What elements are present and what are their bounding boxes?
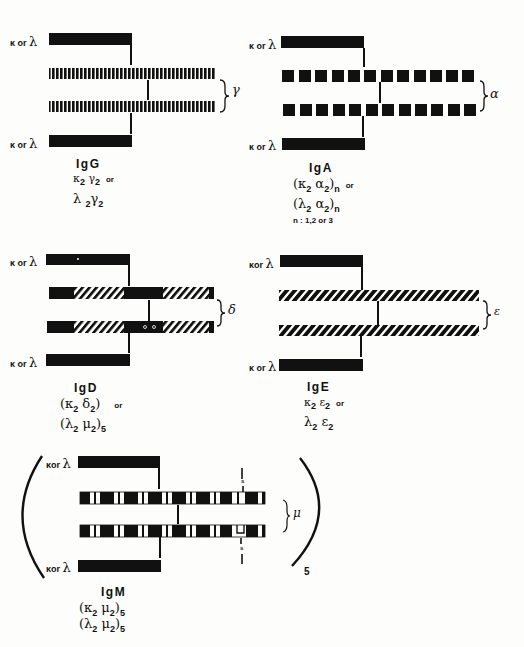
ige-formula-line-1: κ2 ε2or [304,396,344,411]
subscript: 5 [120,624,125,634]
subscript: n [334,204,340,214]
lambda-symbol: λ [268,138,276,153]
iga-heavy-chain-bottom [283,104,476,116]
gamma-symbol: γ [88,172,95,185]
ige-formula-line-2: λ2 ε2 [304,414,333,432]
or-text: or [18,359,27,369]
or-text: or [114,401,122,410]
paren: ) [95,396,100,411]
subscript: 2 [328,422,333,432]
igd-title: IgD [74,381,98,395]
igg-title: IgG [76,157,101,171]
iga-structure [281,36,488,150]
ige-brace-icon [483,301,491,329]
kappa-symbol: (κ [60,396,73,411]
ige-light-chain-label-bottom: κ or λ [249,359,276,374]
delta-symbol: δ [78,396,90,411]
igm-formula-line-1: (κ2 μ2)5 [79,600,125,618]
lambda-symbol: (λ [293,196,306,211]
alpha-symbol: α [311,176,324,191]
kappa-symbol: κ [10,38,15,48]
subscript: 2 [325,401,330,411]
iga-formula-line-2: (λ2 α2)n [293,196,340,214]
or-text: or [51,564,60,574]
kappa-symbol: (κ [293,176,306,191]
mu-symbol: μ [97,616,110,631]
or-text: or [257,142,266,152]
or-text: or [18,140,27,150]
iga-title: IgA [309,161,333,175]
ige-light-chain-label-top: κor λ [249,256,274,271]
or-text: or [51,460,60,470]
igd-light-chain-label-top: κ or λ [10,254,37,269]
lambda-symbol: λ [268,37,276,52]
kappa-symbol: κ [304,396,311,409]
igm-light-chain-label-bottom: κor λ [46,560,71,575]
igd-structure [46,254,225,366]
iga-n-note: n : 1,2 or 3 [293,216,333,225]
lambda-symbol: λ [63,456,71,471]
lambda-symbol: λ [29,254,37,269]
or-text: or [18,258,27,268]
igm-title: IgM [101,585,126,599]
iga-light-chain-bottom [282,138,365,150]
epsilon-symbol: ε [316,396,325,409]
alpha-symbol: α [311,196,324,211]
iga-light-chain-label-top: κ or λ [249,37,276,52]
igg-light-chain-bottom [49,135,132,147]
or-text: or [18,38,27,48]
igg-heavy-chain-symbol: γ [232,82,240,97]
iga-light-chain-top [281,36,364,48]
kappa-symbol: κ [10,140,15,150]
ige-title: IgE [307,380,330,394]
or-text: or [257,41,266,51]
iga-formula-line-1: (κ2 α2)nor [293,176,354,194]
ige-heavy-chain-bottom [279,325,479,336]
igd-heavy-chain-symbol: δ [228,302,236,317]
ige-heavy-chain-top [279,290,479,301]
kappa-symbol: κ [249,142,254,152]
iga-heavy-chain-top [282,70,474,82]
ige-structure [279,255,491,371]
lambda-symbol: λ [29,34,37,49]
iga-light-chain-label-bottom: κ or λ [249,138,276,153]
lambda-symbol: λ [268,359,276,374]
igg-brace-icon [220,80,229,112]
igm-light-chain-top [78,456,160,468]
iga-heavy-chain-symbol: α [490,86,499,101]
igd-light-chain-bottom [46,354,130,366]
ige-light-chain-bottom [279,359,363,371]
mu-symbol: μ [97,600,110,615]
igd-formula-line-1: (κ2 δ2)or [60,396,122,414]
or-text: or [254,260,263,270]
kappa-symbol: κ [10,258,15,268]
subscript: 5 [101,424,106,434]
mu-symbol: μ [78,416,91,431]
or-text: or [106,175,114,184]
lambda-symbol: (λ [60,416,73,431]
kappa-symbol: κ [10,359,15,369]
igm-disulfide-s-bottom: s [240,545,243,551]
subscript: 2 [95,177,100,187]
or-text: or [336,399,344,408]
igm-pentamer-subscript: 5 [304,566,310,577]
igg-heavy-chain-top [49,68,215,79]
or-text: or [257,363,266,373]
immunoglobulin-diagram [0,0,524,647]
iga-brace-icon [480,81,488,111]
igm-heavy-chain-symbol: μ [293,506,301,520]
igg-formula-line-1: κ2 γ2or [73,172,114,187]
igm-light-chain-bottom [78,560,161,572]
lambda-symbol: λ [29,136,37,151]
igm-disulfide-s-top: s [241,478,244,484]
igg-formula-line-2: λ 2γ2 [73,191,103,209]
ige-light-chain-top [280,255,363,267]
subscript: 2 [80,177,85,187]
kappa-symbol: κ [249,41,254,51]
igg-light-chain-label-top: κ or λ [10,34,37,49]
igg-light-chain-top [49,33,132,45]
igg-structure [49,33,229,147]
igm-light-chain-label-top: κor λ [46,456,71,471]
subscript: n [334,184,340,194]
lambda-symbol: λ [304,414,312,429]
